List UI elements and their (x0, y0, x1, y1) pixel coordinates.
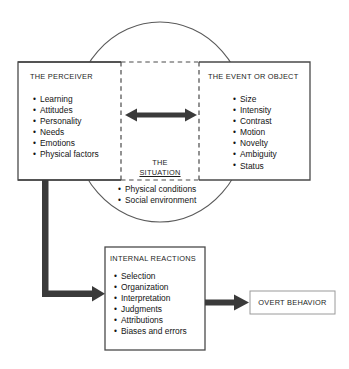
list-item: Novelty (233, 138, 277, 149)
list-item: Social environment (118, 195, 196, 206)
situation-list: Physical conditions Social environment (118, 184, 196, 206)
list-item: Size (233, 94, 277, 105)
perceiver-event-double-arrow (125, 109, 197, 122)
list-item: Contrast (233, 116, 277, 127)
list-item: Attributions (114, 315, 187, 326)
list-item: Intensity (233, 105, 277, 116)
list-item: Selection (114, 271, 187, 282)
situation-heading-line1: THE (152, 158, 168, 167)
event-list: Size Intensity Contrast Motion Novelty A… (233, 94, 277, 172)
list-item: Attitudes (33, 105, 99, 116)
list-item: Biases and errors (114, 326, 187, 337)
perceiver-list: Learning Attitudes Personality Needs Emo… (33, 94, 99, 161)
situation-heading: THE SITUATION (121, 158, 199, 177)
list-item: Interpretation (114, 293, 187, 304)
perceiver-heading: THE PERCEIVER (30, 72, 93, 81)
list-item: Needs (33, 127, 99, 138)
list-item: Emotions (33, 138, 99, 149)
list-item: Status (233, 161, 277, 172)
situation-heading-line2: SITUATION (139, 168, 180, 177)
perceiver-to-internal-arrow (42, 180, 105, 301)
perception-process-diagram: THE PERCEIVER Learning Attitudes Persona… (0, 0, 349, 369)
list-item: Personality (33, 116, 99, 127)
internal-reactions-list: Selection Organization Interpretation Ju… (114, 271, 187, 338)
list-item: Learning (33, 94, 99, 105)
list-item: Physical conditions (118, 184, 196, 195)
internal-to-overt-arrow (205, 295, 249, 311)
internal-reactions-heading: INTERNAL REACTIONS (110, 254, 196, 263)
event-heading: THE EVENT OR OBJECT (208, 72, 298, 81)
overt-behavior-label: OVERT BEHAVIOR (250, 291, 335, 314)
list-item: Physical factors (33, 149, 99, 160)
list-item: Judgments (114, 304, 187, 315)
list-item: Motion (233, 127, 277, 138)
list-item: Organization (114, 282, 187, 293)
list-item: Ambiguity (233, 149, 277, 160)
